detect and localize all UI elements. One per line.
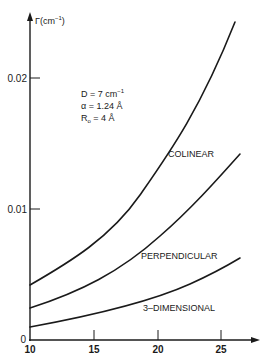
label-perpendicular: PERPENDICULAR xyxy=(141,251,218,261)
x-tick-label-20: 20 xyxy=(152,344,164,355)
param-r0: Ro = 4 Å xyxy=(81,113,115,124)
y-tick-label-0.01: 0.01 xyxy=(8,204,28,215)
tick-marks xyxy=(30,78,221,340)
y-axis-arrow-icon xyxy=(27,12,33,21)
axes xyxy=(29,18,255,341)
chart-canvas: 0.02 0.01 0 10 15 20 25 Γ(cm−1) D = 7 cm… xyxy=(0,0,269,360)
y-tick-label-0.02: 0.02 xyxy=(8,73,28,84)
x-tick-label-15: 15 xyxy=(88,344,100,355)
curve-perpendicular xyxy=(30,154,240,308)
label-colinear: COLINEAR xyxy=(168,149,215,159)
x-tick-label-25: 25 xyxy=(215,344,227,355)
x-axis-arrow-icon xyxy=(251,337,260,343)
y-axis-label: Γ(cm−1) xyxy=(35,15,65,26)
curve-3d xyxy=(30,258,240,327)
label-3-dimensional: 3–DIMENSIONAL xyxy=(143,303,215,313)
param-d: D = 7 cm−1 xyxy=(81,88,125,99)
parameter-annotations: D = 7 cm−1 α = 1.24 Å Ro = 4 Å xyxy=(81,88,125,124)
param-alpha: α = 1.24 Å xyxy=(81,101,122,111)
x-tick-label-10: 10 xyxy=(24,344,36,355)
